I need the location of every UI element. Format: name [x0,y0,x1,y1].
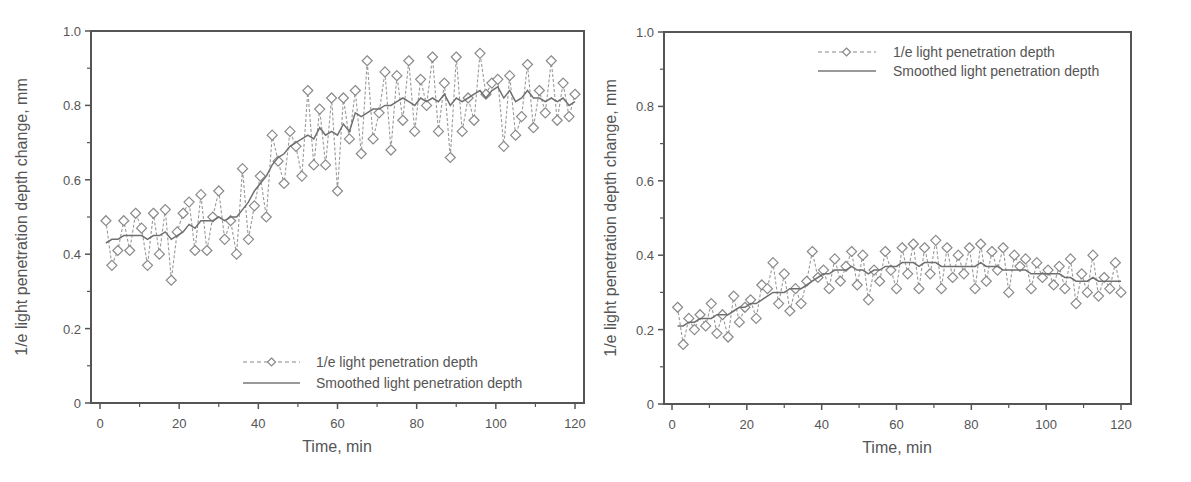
data-point-diamond [1009,250,1019,260]
data-point-diamond [350,86,360,96]
data-point-diamond [1071,299,1081,309]
y-axis-title: 1/e light penetration depth change, mm [13,78,30,356]
data-point-diamond [154,249,164,259]
data-point-diamond [936,284,946,294]
data-point-diamond [279,179,289,189]
y-tick-label: 0.4 [636,248,654,263]
y-tick-label: 1.0 [636,25,654,40]
legend-raw-diamond-icon [843,48,851,56]
data-point-diamond [678,339,688,349]
y-tick-label: 0.4 [63,247,81,262]
plot-frame [664,32,1131,404]
data-point-diamond [835,276,845,286]
data-point-diamond [863,295,873,305]
data-point-diamond [1054,261,1064,271]
y-tick-label: 1.0 [63,24,81,39]
data-point-diamond [356,149,366,159]
y-tick-label: 0.6 [63,173,81,188]
data-point-diamond [1105,284,1115,294]
data-point-diamond [734,317,744,327]
y-axis-ticks: 00.20.40.60.81.0 [636,25,664,412]
data-point-diamond [920,243,930,253]
data-point-diamond [897,243,907,253]
data-point-diamond [981,276,991,286]
data-point-diamond [892,284,902,294]
data-point-diamond [774,299,784,309]
legend-smooth-label: Smoothed light penetration depth [316,375,522,391]
smoothed-series-line [106,87,575,243]
data-point-diamond [303,86,313,96]
x-tick-label: 40 [814,417,828,432]
data-point-diamond [564,112,574,122]
data-point-diamond [570,89,580,99]
raw-series-line [678,240,1121,344]
data-point-diamond [768,258,778,268]
data-point-diamond [416,74,426,84]
data-point-diamond [948,273,958,283]
data-point-diamond [321,160,331,170]
data-point-diamond [976,239,986,249]
data-point-diamond [469,115,479,125]
data-point-diamond [410,126,420,136]
data-point-diamond [712,328,722,338]
data-point-diamond [953,250,963,260]
x-axis-ticks: 020406080100120 [96,403,585,431]
x-tick-label: 0 [96,416,103,431]
data-point-diamond [457,126,467,136]
data-point-diamond [119,216,129,226]
data-point-diamond [908,239,918,249]
data-point-diamond [729,291,739,301]
data-point-diamond [824,284,834,294]
data-point-diamond [998,243,1008,253]
chart-canvas: 020406080100120 00.20.40.60.81.0 Time, m… [0,0,1191,482]
data-point-diamond [445,152,455,162]
data-point-diamond [706,299,716,309]
data-point-diamond [238,164,248,174]
data-point-diamond [196,190,206,200]
data-point-diamond [1082,287,1092,297]
data-point-diamond [137,223,147,233]
data-point-diamond [249,201,259,211]
data-point-diamond [852,280,862,290]
data-point-diamond [184,197,194,207]
x-tick-label: 40 [251,416,265,431]
data-point-diamond [523,59,533,69]
data-point-diamond [166,275,176,285]
data-point-diamond [1094,291,1104,301]
data-point-diamond [309,160,319,170]
series-raw [101,48,580,285]
data-point-diamond [243,234,253,244]
data-point-diamond [386,145,396,155]
y-axis-title: 1/e light penetration depth change, mm [602,79,619,357]
series-smoothed [106,87,575,243]
data-point-diamond [475,48,485,58]
x-axis-ticks: 020406080100120 [668,404,1131,432]
chart-right: 020406080100120 00.20.40.60.81.0 Time, m… [602,25,1132,456]
series-raw [673,235,1126,349]
data-point-diamond [880,246,890,256]
data-point-diamond [1032,258,1042,268]
x-tick-label: 80 [409,416,423,431]
y-tick-label: 0.8 [636,99,654,114]
y-tick-label: 0.2 [63,322,81,337]
data-point-diamond [101,216,111,226]
data-point-diamond [1021,254,1031,264]
legend-smooth-label: Smoothed light penetration depth [893,63,1099,79]
data-point-diamond [796,299,806,309]
x-axis-title: Time, min [302,438,372,455]
data-point-diamond [925,269,935,279]
data-point-diamond [847,246,857,256]
x-tick-label: 20 [172,416,186,431]
data-point-diamond [875,276,885,286]
data-point-diamond [534,86,544,96]
data-point-diamond [1060,284,1070,294]
data-point-diamond [261,212,271,222]
data-point-diamond [451,52,461,62]
data-point-diamond [131,208,141,218]
data-point-diamond [723,332,733,342]
data-point-diamond [964,243,974,253]
data-point-diamond [959,269,969,279]
x-tick-label: 100 [485,416,507,431]
data-point-diamond [970,284,980,294]
data-point-diamond [315,104,325,114]
